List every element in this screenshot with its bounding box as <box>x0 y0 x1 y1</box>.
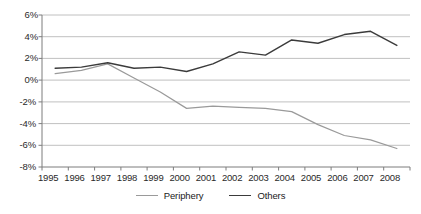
x-axis-tick-label: 1999 <box>141 172 165 183</box>
x-axis-tick-label: 2001 <box>194 172 218 183</box>
x-axis-ticks <box>42 167 410 171</box>
x-axis-tick-label: 1998 <box>115 172 139 183</box>
x-axis-tick-label: 1995 <box>36 172 60 183</box>
x-axis-tick-label: 1996 <box>63 172 87 183</box>
series-line-others <box>55 31 397 71</box>
x-axis-tick-label: 2007 <box>352 172 376 183</box>
legend-label: Periphery <box>164 190 204 201</box>
x-axis-tick-label: 2004 <box>273 172 297 183</box>
x-axis-tick-label: 1997 <box>89 172 113 183</box>
legend-color-swatch-periphery <box>136 195 158 196</box>
legend-color-swatch-others <box>229 195 251 196</box>
series-line-periphery <box>55 64 397 149</box>
gridlines <box>42 15 410 145</box>
legend-label: Others <box>257 190 285 201</box>
x-axis-tick-label: 2002 <box>220 172 244 183</box>
x-axis-tick-label: 2003 <box>246 172 270 183</box>
x-axis-tick-label: 2000 <box>168 172 192 183</box>
y-axis-ticks <box>39 15 43 167</box>
legend-entry-others: Others <box>229 190 285 201</box>
x-axis-tick-label: 2005 <box>299 172 323 183</box>
line-chart: 6% 4% 2% 0% -2% -4% -6% -8% <box>0 0 421 214</box>
x-axis-tick-label: 2008 <box>378 172 402 183</box>
chart-legend: Periphery Others <box>0 190 421 201</box>
x-axis-tick-label: 2006 <box>325 172 349 183</box>
legend-entry-periphery: Periphery <box>136 190 204 201</box>
